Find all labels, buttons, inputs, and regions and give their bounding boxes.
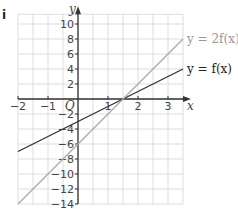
x-tick-label: 3 xyxy=(165,100,172,113)
y-axis-label: y xyxy=(68,2,76,16)
y-tick-label: 6 xyxy=(67,48,74,61)
y-tick-label: 8 xyxy=(67,33,74,46)
y-tick-label: −8 xyxy=(58,153,74,166)
y-tick-label: −12 xyxy=(51,183,74,196)
y-tick-label: −14 xyxy=(51,198,74,209)
x-axis-label: x xyxy=(187,99,194,113)
series-lines xyxy=(18,39,183,204)
series-labels: y = f(x)y = 2f(x) xyxy=(186,32,238,76)
y-tick-label: 10 xyxy=(60,18,74,31)
tick-labels: −2−1123108642−2−4−6−8−10−12−14xyO xyxy=(10,2,194,209)
line-chart: −2−1123108642−2−4−6−8−10−12−14xyO y = f(… xyxy=(0,0,238,209)
y-tick-label: 2 xyxy=(67,78,74,91)
x-tick-label: −2 xyxy=(10,100,26,113)
origin-label: O xyxy=(65,99,75,113)
y-tick-label: −10 xyxy=(51,168,74,181)
y-tick-label: 4 xyxy=(67,63,74,76)
x-tick-label: −1 xyxy=(40,100,56,113)
x-tick-label: 2 xyxy=(135,100,142,113)
y-axis-arrow-icon xyxy=(75,6,81,14)
y-tick-label: −6 xyxy=(58,138,74,151)
series-label: y = f(x) xyxy=(186,62,232,76)
series-line xyxy=(18,39,183,204)
series-label: y = 2f(x) xyxy=(186,32,238,46)
